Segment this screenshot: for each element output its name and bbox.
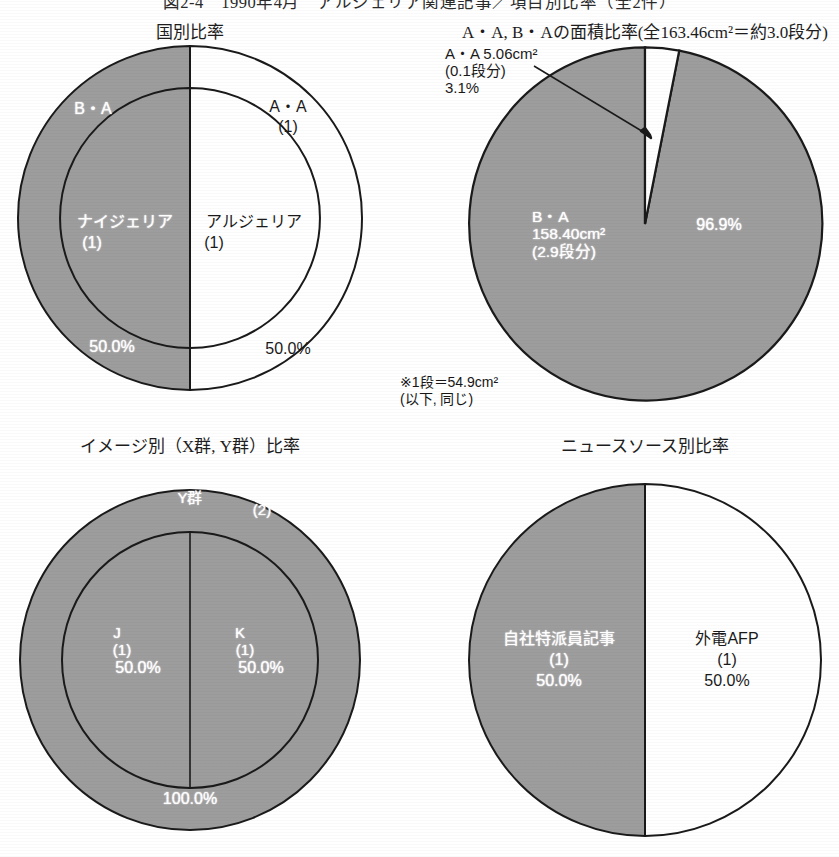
area-callout-text: A・A 5.06cm² (0.1段分) 3.1% (445, 46, 538, 96)
image-inner-count-k: (1) (236, 642, 254, 659)
image-outer-label-ygun: Y群 (177, 490, 202, 507)
country-outer-percent-ba: 50.0% (89, 338, 134, 356)
image-inner-percent-k: 50.0% (238, 659, 283, 677)
image-outer-count-ygun: (2) (253, 502, 271, 519)
panel-image-ratio: イメージ別（X群, Y群）比率 Y群 (2) 100.0% J (1) 50.0… (0, 432, 420, 857)
country-inner-label-algeria: アルジェリア (206, 213, 302, 231)
source-label-own-correspondent: 自社特派員記事 (503, 630, 615, 648)
country-outer-count-aa: (1) (278, 118, 298, 136)
image-inner-label-j: J (113, 625, 121, 642)
source-percent-afp: 50.0% (704, 672, 749, 690)
area-footnote: ※1段＝54.9cm² (以下, 同じ) (400, 374, 498, 408)
panel-country-ratio: 国別比率 B・A A・A (1) 50.0% 50.0% ナイジェリア (1) … (0, 18, 420, 418)
figure-page: 図2-4 1990年4月 アルジェリア関連記事／項目別比率（全2件） 国別比率 … (0, 0, 839, 857)
image-inner-percent-j: 50.0% (115, 659, 160, 677)
country-inner-count-algeria: (1) (204, 234, 224, 252)
figure-master-title: 図2-4 1990年4月 アルジェリア関連記事／項目別比率（全2件） (0, 0, 839, 13)
source-count-afp: (1) (717, 651, 737, 669)
source-percent-own-correspondent: 50.0% (536, 672, 581, 690)
panel-area-ratio: A・A, B・Aの面積比率(全163.46cm²＝約3.0段分) A・A 5.0… (419, 18, 839, 438)
country-inner-count-nigeria: (1) (82, 234, 102, 252)
country-outer-percent-aa: 50.0% (265, 340, 310, 358)
area-slice-ba-percent: 96.9% (696, 216, 741, 234)
panel-source-ratio: ニュースソース別比率 自社特派員記事 (1) 50.0% 外電AFP (1) 5… (419, 432, 839, 857)
country-outer-label-aa: A・A (269, 98, 306, 116)
area-slice-ba-label: B・A 158.40cm² (2.9段分) (532, 208, 605, 260)
country-inner-label-nigeria: ナイジェリア (77, 213, 173, 231)
image-inner-count-j: (1) (113, 642, 131, 659)
source-ratio-chart (419, 432, 839, 857)
country-outer-label-ba: B・A (74, 100, 111, 118)
image-inner-label-k: K (235, 625, 245, 642)
source-label-afp: 外電AFP (695, 630, 758, 648)
source-count-own-correspondent: (1) (549, 651, 569, 669)
image-outer-percent-ygun: 100.0% (163, 790, 217, 808)
